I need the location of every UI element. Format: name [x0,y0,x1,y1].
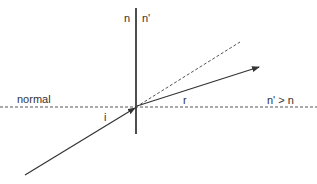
condition-label: n' > n [267,94,294,106]
incident-angle-label: i [104,111,106,123]
refracted-ray-arrow [137,67,259,106]
medium-right-label: n' [142,12,150,24]
undeviated-extension-line [136,42,240,107]
medium-left-label: n [124,12,130,24]
incident-ray-arrow [25,108,135,175]
normal-label: normal [17,93,51,105]
refraction-diagram: n n' normal i r n' > n [0,0,317,184]
refraction-angle-label: r [183,94,187,106]
